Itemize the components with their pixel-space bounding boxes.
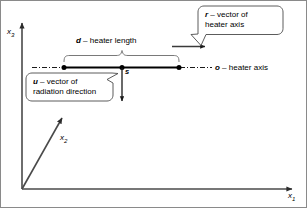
diagram-canvas: x3 x2 x1 s d – heater length o – heater …	[0, 0, 308, 209]
heater-length-label: d – heater length	[76, 36, 137, 45]
callout-label-r-vector: r – vector of heater axis	[205, 10, 248, 31]
callout-u-line1: u – vector of	[33, 77, 96, 87]
callout-r-line2: heater axis	[205, 20, 248, 30]
point-label-s: s	[125, 68, 129, 77]
heater-axis-label: o – heater axis	[215, 63, 268, 72]
callout-r-line1: r – vector of	[205, 10, 248, 20]
callout-label-u-vector: u – vector of radiation direction	[33, 77, 96, 98]
callout-u-line2: radiation direction	[33, 87, 96, 97]
axis-label-x3: x3	[7, 27, 14, 39]
diagram-vector-layer	[0, 0, 308, 209]
axis-label-x2: x2	[60, 133, 67, 145]
axis-x2	[22, 118, 62, 189]
heater-length-brace	[64, 51, 179, 63]
axis-label-x1: x1	[288, 191, 295, 203]
